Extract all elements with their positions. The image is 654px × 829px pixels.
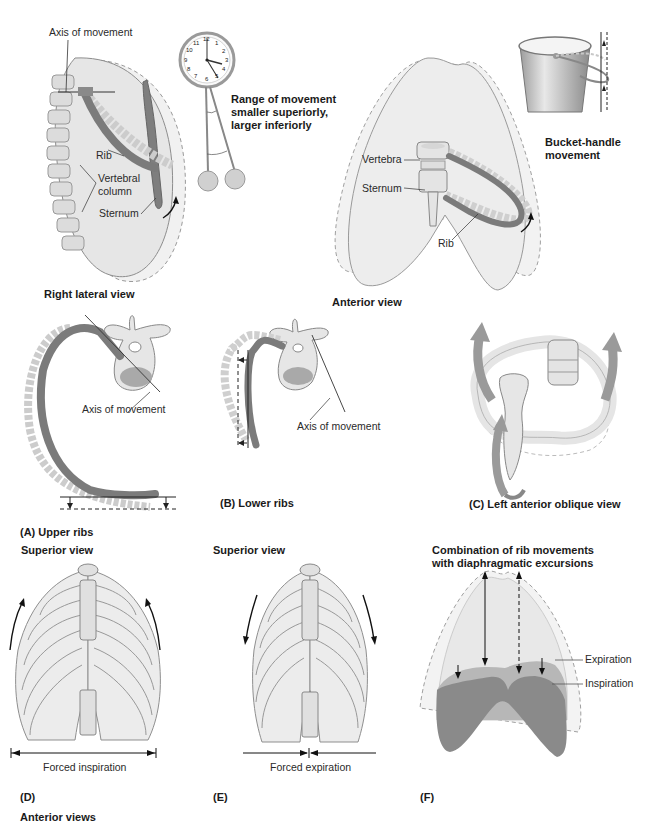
expiration-label: Expiration	[585, 654, 632, 666]
inspiration-label: Inspiration	[585, 678, 633, 690]
diaphragm-illustration	[0, 0, 654, 829]
panel-f-caption: (F)	[420, 791, 434, 804]
footer-caption: Anterior views	[20, 811, 96, 824]
